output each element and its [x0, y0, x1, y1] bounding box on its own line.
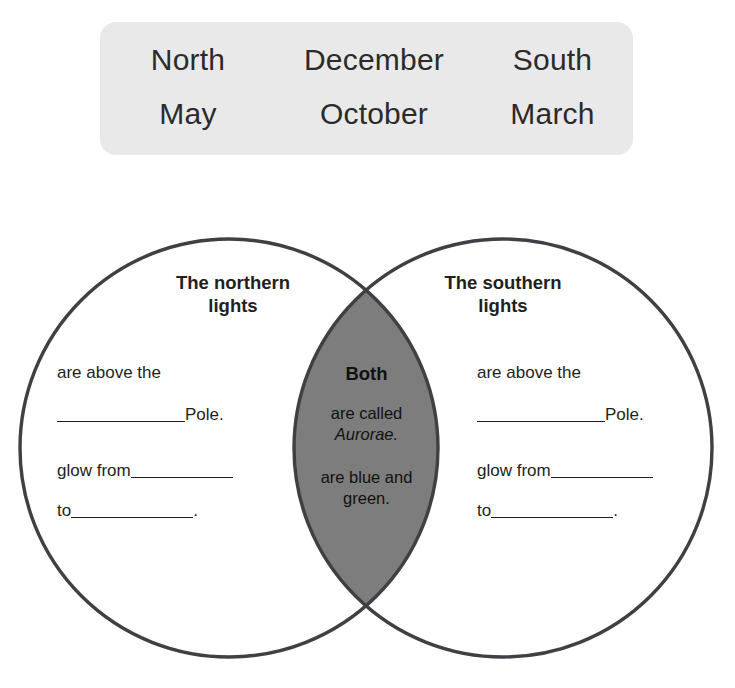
right-statement-3-suffix: .	[613, 501, 618, 520]
venn-right-statements: are above the Pole. glow from to.	[477, 362, 703, 522]
venn-both-fact-1-line2: Aurorae.	[335, 425, 398, 443]
venn-title-northern-line2: lights	[208, 295, 257, 316]
right-statement-3: to.	[477, 499, 703, 521]
venn-both-fact-2: are blue and green.	[300, 467, 433, 509]
right-statement-1-suffix: Pole.	[605, 405, 644, 424]
left-statement-3-prefix: to	[57, 501, 71, 520]
word-bank-word-north[interactable]: North	[100, 45, 276, 75]
left-statement-2: glow from	[57, 459, 283, 481]
left-statement-2-prefix: glow from	[57, 461, 131, 480]
venn-both-heading: Both	[300, 363, 433, 385]
venn-title-southern-line2: lights	[478, 295, 527, 316]
right-statement-1: are above the	[477, 362, 703, 383]
right-blank-glow-to[interactable]	[491, 499, 613, 518]
left-statement-1: are above the	[57, 362, 283, 383]
venn-title-southern: The southern lights	[398, 272, 608, 318]
left-blank-glow-to[interactable]	[71, 499, 193, 518]
venn-title-northern: The northern lights	[128, 272, 338, 318]
right-blank-pole[interactable]	[477, 403, 605, 422]
left-statement-1-text: are above the	[57, 363, 161, 382]
word-bank: North December South May October March	[100, 22, 633, 155]
word-bank-row: North December South	[100, 30, 633, 90]
right-statement-2-prefix: glow from	[477, 461, 551, 480]
venn-both-fact-2-line2: green.	[343, 489, 390, 507]
word-bank-row: May October March	[100, 84, 633, 144]
right-blank-glow-from[interactable]	[551, 459, 653, 478]
venn-both-fact-1-line1: are called	[331, 404, 403, 422]
right-statement-1-answer-row: Pole.	[477, 403, 703, 425]
word-bank-word-october[interactable]: October	[276, 99, 472, 129]
left-statement-1-suffix: Pole.	[185, 405, 224, 424]
venn-left-statements: are above the Pole. glow from to.	[57, 362, 283, 522]
venn-title-southern-line1: The southern	[444, 272, 561, 293]
venn-both-fact-2-line1: are blue and	[321, 468, 413, 486]
venn-both-fact-1: are called Aurorae.	[300, 403, 433, 445]
left-statement-3: to.	[57, 499, 283, 521]
word-bank-word-south[interactable]: South	[472, 45, 633, 75]
left-blank-glow-from[interactable]	[131, 459, 233, 478]
right-statement-1-text: are above the	[477, 363, 581, 382]
left-statement-3-suffix: .	[193, 501, 198, 520]
word-bank-word-december[interactable]: December	[276, 45, 472, 75]
left-blank-pole[interactable]	[57, 403, 185, 422]
venn-title-northern-line1: The northern	[176, 272, 290, 293]
right-statement-3-prefix: to	[477, 501, 491, 520]
word-bank-word-may[interactable]: May	[100, 99, 276, 129]
left-statement-1-answer-row: Pole.	[57, 403, 283, 425]
word-bank-word-march[interactable]: March	[472, 99, 633, 129]
venn-both-statements: Both are called Aurorae. are blue and gr…	[300, 363, 433, 508]
right-statement-2: glow from	[477, 459, 703, 481]
